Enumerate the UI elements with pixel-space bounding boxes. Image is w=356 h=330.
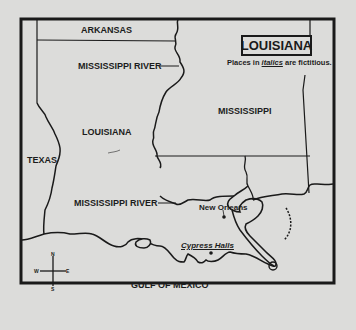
cypress-halls-marker[interactable]: [209, 251, 213, 255]
arkansas-label: ARKANSAS: [81, 25, 132, 35]
mississippi-river-south-label: MISSISSIPPI RIVER: [74, 198, 158, 208]
map-legend-note: Places in italics are fictitious.: [227, 58, 332, 67]
louisiana-label: LOUISIANA: [82, 127, 132, 137]
mississippi-label: MISSISSIPPI: [218, 106, 272, 116]
pearl-river-border: [244, 156, 253, 200]
mississippi-river-north-label: MISSISSIPPI RIVER: [78, 61, 162, 71]
marsh-island: [135, 239, 150, 248]
legend-prefix: Places in: [227, 58, 262, 67]
legend-suffix: are fictitious.: [283, 58, 332, 67]
compass-south: S: [51, 286, 54, 292]
gulf-of-mexico-label: GULF OF MEXICO: [131, 280, 209, 290]
louisiana-mark: [108, 150, 120, 153]
cypress-halls-label[interactable]: Cypress Halls: [181, 241, 234, 250]
arkansas-louisiana-border: [37, 40, 176, 41]
chandeleur-islands: [284, 208, 291, 240]
compass-north: N: [51, 251, 55, 257]
new-orleans-label[interactable]: New Orleans: [199, 203, 247, 212]
mississippi-coast: [253, 184, 333, 200]
legend-italic-word: italics: [262, 58, 283, 67]
texas-label: TEXAS: [27, 155, 57, 165]
map-title: LOUISIANA: [241, 38, 313, 53]
compass-west: W: [34, 268, 39, 274]
texas-louisiana-border: [37, 103, 60, 234]
compass-east: E: [66, 268, 69, 274]
map-title-box: LOUISIANA: [241, 35, 312, 56]
